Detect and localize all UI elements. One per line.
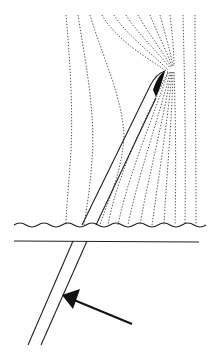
field-lines <box>66 15 196 225</box>
wavy-surface-line <box>14 223 206 227</box>
needle-tip <box>153 71 165 97</box>
needle-field-diagram <box>0 0 209 356</box>
insertion-arrow-icon <box>62 289 132 324</box>
boundary-line <box>14 241 199 242</box>
